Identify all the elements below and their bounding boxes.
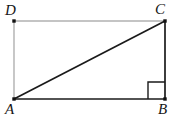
vertex-dot-C (163, 19, 166, 22)
vertex-dot-D (12, 19, 15, 22)
geometry-figure: D C A B (0, 0, 179, 124)
diagonal-AC-line (14, 21, 165, 99)
vertex-label-D: D (5, 3, 16, 18)
vertex-label-A: A (5, 102, 14, 117)
vertex-label-C: C (155, 2, 165, 17)
right-angle-marker-icon (148, 82, 165, 99)
vertex-label-B: B (158, 102, 167, 117)
figure-canvas (0, 0, 179, 124)
